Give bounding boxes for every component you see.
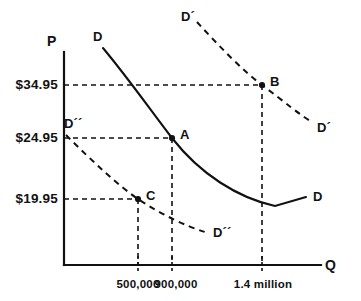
x-tick-label-500000: 500,000 bbox=[117, 279, 160, 291]
curve-label-d-prime-right: D´ bbox=[317, 121, 331, 134]
demand-curve-d-prime bbox=[197, 22, 312, 122]
data-point-a bbox=[169, 135, 175, 141]
data-point-c bbox=[135, 196, 141, 202]
point-label-a: A bbox=[180, 128, 190, 141]
x-tick-label-900000: 900,000 bbox=[155, 279, 198, 291]
y-tick-label-3495: $34.95 bbox=[0, 78, 58, 92]
x-tick-label-1400000: 1.4 million bbox=[234, 279, 292, 291]
y-tick-label-1995: $19.95 bbox=[0, 192, 58, 206]
y-tick-label-2495: $24.95 bbox=[0, 131, 58, 145]
curve-label-d-double-prime-left: D´´ bbox=[64, 117, 83, 130]
curve-label-d-double-prime-bottom: D´´ bbox=[213, 226, 232, 239]
curve-label-d-top: D bbox=[93, 30, 103, 43]
demand-curve-chart: P Q $34.95 $24.95 $19.95 500,000 900,000… bbox=[0, 0, 361, 301]
y-axis-label: P bbox=[47, 34, 57, 48]
point-label-c: C bbox=[146, 189, 156, 202]
demand-curve-d-double-prime bbox=[66, 135, 205, 232]
curve-label-d-bottom: D bbox=[313, 190, 323, 203]
point-label-b: B bbox=[270, 75, 280, 88]
demand-curve-d bbox=[103, 48, 306, 206]
x-axis-label: Q bbox=[325, 258, 336, 272]
data-point-b bbox=[259, 82, 265, 88]
curve-label-d-prime-top: D´ bbox=[181, 10, 195, 23]
